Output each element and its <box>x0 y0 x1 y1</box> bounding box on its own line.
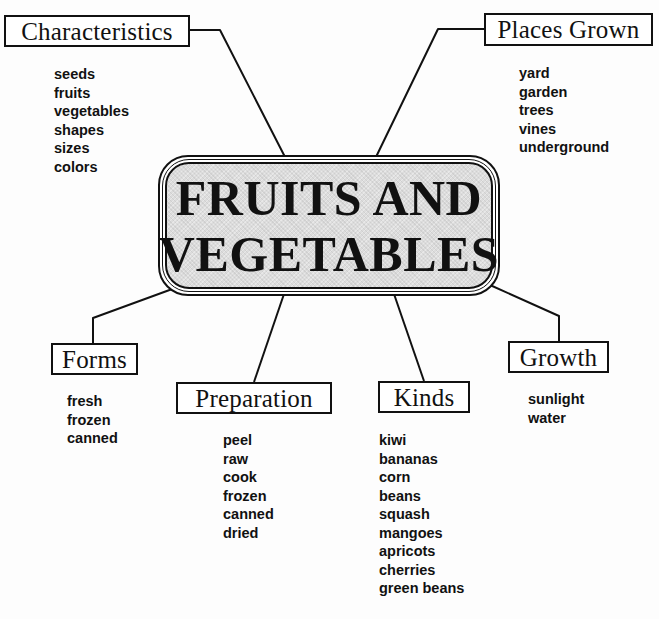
connector-characteristics <box>189 30 285 157</box>
list-item: vines <box>519 120 609 139</box>
list-item: seeds <box>54 65 129 84</box>
central-topic: FRUITS AND VEGETABLES <box>165 162 493 289</box>
list-item: sizes <box>54 139 129 158</box>
branch-title: Growth <box>520 345 598 370</box>
branch-list-growth: sunlight water <box>528 390 584 427</box>
branch-list-preparation: peel raw cook frozen canned dried <box>223 431 274 542</box>
list-item: trees <box>519 101 609 120</box>
branch-label-places-grown: Places Grown <box>484 13 653 46</box>
central-topic-line-1: FRUITS AND <box>176 170 482 226</box>
branch-label-preparation: Preparation <box>176 382 332 414</box>
list-item: green beans <box>379 579 464 598</box>
list-item: peel <box>223 431 274 450</box>
branch-title: Preparation <box>195 386 312 411</box>
list-item: water <box>528 409 584 428</box>
concept-map: FRUITS AND VEGETABLES Characteristics se… <box>0 0 659 619</box>
branch-label-growth: Growth <box>508 341 609 373</box>
list-item: yard <box>519 64 609 83</box>
list-item: vegetables <box>54 102 129 121</box>
list-item: cook <box>223 468 274 487</box>
list-item: bananas <box>379 450 464 469</box>
list-item: sunlight <box>528 390 584 409</box>
central-topic-frame: FRUITS AND VEGETABLES <box>158 155 500 296</box>
list-item: canned <box>67 429 118 448</box>
list-item: beans <box>379 487 464 506</box>
branch-label-forms: Forms <box>51 343 138 375</box>
branch-list-kinds: kiwi bananas corn beans squash mangoes a… <box>379 431 464 598</box>
connector-kinds <box>394 294 424 381</box>
branch-list-forms: fresh frozen canned <box>67 392 118 448</box>
list-item: fresh <box>67 392 118 411</box>
branch-label-kinds: Kinds <box>378 381 470 413</box>
list-item: frozen <box>67 411 118 430</box>
central-topic-line-2: VEGETABLES <box>159 226 499 282</box>
branch-title: Kinds <box>394 385 455 410</box>
list-item: raw <box>223 450 274 469</box>
list-item: cherries <box>379 561 464 580</box>
connector-forms <box>93 288 175 343</box>
list-item: dried <box>223 524 274 543</box>
list-item: underground <box>519 138 609 157</box>
branch-list-characteristics: seeds fruits vegetables shapes sizes col… <box>54 65 129 176</box>
list-item: frozen <box>223 487 274 506</box>
list-item: colors <box>54 158 129 177</box>
list-item: apricots <box>379 542 464 561</box>
list-item: garden <box>519 83 609 102</box>
branch-list-places-grown: yard garden trees vines underground <box>519 64 609 157</box>
branch-title: Forms <box>62 347 127 372</box>
connector-places-grown <box>376 29 484 157</box>
branch-label-characteristics: Characteristics <box>4 15 190 47</box>
central-topic-frame-mid: FRUITS AND VEGETABLES <box>162 159 496 292</box>
list-item: squash <box>379 505 464 524</box>
branch-title: Places Grown <box>498 17 640 42</box>
list-item: fruits <box>54 84 129 103</box>
list-item: kiwi <box>379 431 464 450</box>
list-item: shapes <box>54 121 129 140</box>
branch-title: Characteristics <box>21 19 173 44</box>
connector-preparation <box>254 294 284 382</box>
connector-growth <box>490 285 559 341</box>
list-item: canned <box>223 505 274 524</box>
list-item: mangoes <box>379 524 464 543</box>
list-item: corn <box>379 468 464 487</box>
